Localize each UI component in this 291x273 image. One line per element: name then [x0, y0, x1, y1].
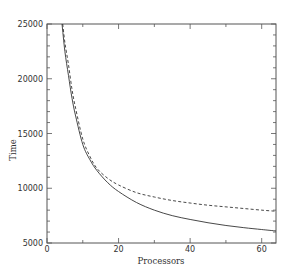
- x-tick-label: 40: [185, 245, 195, 254]
- x-tick-label: 60: [257, 245, 267, 254]
- y-tick-label: 10000: [18, 184, 43, 193]
- x-tick-label: 0: [44, 245, 49, 254]
- line-chart: 0204060 500010000150002000025000 Process…: [0, 0, 291, 273]
- series-layer: [62, 24, 276, 231]
- y-tick-label: 25000: [18, 20, 43, 29]
- x-tick-label: 20: [113, 245, 123, 254]
- y-tick-label: 5000: [23, 239, 43, 248]
- x-axis-label: Processors: [138, 256, 185, 266]
- y-axis-label: Time: [8, 139, 18, 160]
- y-tick-label: 20000: [18, 75, 43, 84]
- y-tick-labels: 500010000150002000025000: [18, 20, 43, 248]
- series-dashed-line: [63, 24, 276, 211]
- x-tick-labels: 0204060: [44, 245, 266, 254]
- y-tick-label: 15000: [18, 130, 43, 139]
